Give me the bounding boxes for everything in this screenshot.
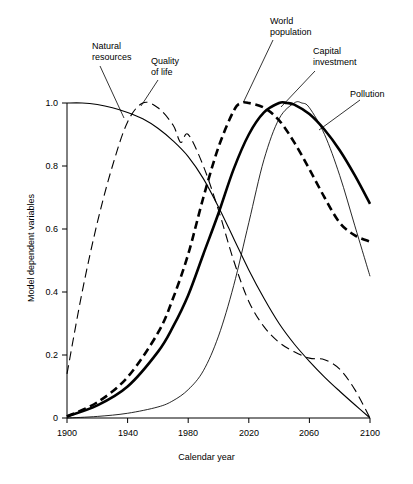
y-axis-title: Model dependent variables bbox=[26, 158, 36, 338]
y-tick-label-5: 0.2 bbox=[32, 350, 58, 360]
x-tick-label-2020: 2020 bbox=[229, 428, 269, 438]
x-tick-label-1940: 1940 bbox=[108, 428, 148, 438]
leader-line-quality-of-life bbox=[141, 80, 158, 106]
annotation-quality-of-life: Quality of life bbox=[151, 56, 179, 78]
annotation-pollution: Pollution bbox=[350, 89, 385, 100]
leader-line-natural-resources bbox=[100, 66, 124, 118]
chart-figure: 1.0 0.8 0.6 0.4 0.2 0 1900 1940 1980 202… bbox=[0, 0, 413, 484]
y-axis-ticks bbox=[62, 103, 67, 418]
annotation-world-population: World population bbox=[270, 16, 312, 38]
series-line-capital-investment bbox=[67, 102, 370, 416]
x-axis-ticks bbox=[67, 418, 370, 423]
chart-series-group bbox=[67, 102, 370, 418]
x-axis-title: Calendar year bbox=[0, 452, 413, 462]
x-tick-label-1900: 1900 bbox=[47, 428, 87, 438]
leader-line-world-population bbox=[244, 40, 273, 101]
y-tick-label-1: 1.0 bbox=[32, 98, 58, 108]
x-tick-label-2100: 2100 bbox=[350, 428, 390, 438]
y-tick-label-6: 0 bbox=[32, 413, 58, 423]
leader-line-pollution bbox=[319, 100, 360, 130]
annotation-natural-resources: Natural resources bbox=[92, 41, 132, 63]
x-tick-label-2060: 2060 bbox=[289, 428, 329, 438]
chart-plot-area bbox=[0, 0, 413, 484]
annotation-capital-investment: Capital investment bbox=[313, 46, 357, 68]
x-tick-label-1980: 1980 bbox=[168, 428, 208, 438]
